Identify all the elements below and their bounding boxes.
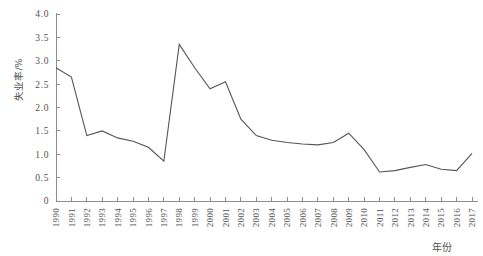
- y-axis: 00.51.01.52.02.53.03.54.0: [35, 9, 60, 206]
- y-tick-label: 3.5: [35, 33, 49, 43]
- x-tick-label: 2010: [359, 208, 369, 227]
- x-tick-label: 1990: [51, 208, 61, 227]
- x-tick-label: 1999: [190, 208, 200, 227]
- x-tick-label: 2016: [452, 208, 462, 227]
- x-tick-label: 2001: [221, 208, 231, 227]
- x-tick-label: 1996: [144, 208, 154, 227]
- x-tick-label: 2005: [282, 208, 292, 227]
- x-tick-label: 1992: [82, 208, 92, 227]
- y-tick-label: 2.0: [35, 103, 49, 113]
- x-tick-label: 2004: [267, 208, 277, 227]
- x-tick-label: 2014: [421, 208, 431, 227]
- x-tick-label: 1993: [97, 208, 107, 227]
- y-tick-label: 0: [44, 196, 49, 206]
- x-tick-label: 2009: [344, 208, 354, 227]
- x-tick-label: 2011: [375, 208, 385, 227]
- x-tick-label: 2013: [406, 208, 416, 227]
- x-tick-label: 2000: [205, 208, 215, 227]
- x-tick-label: 1991: [67, 208, 77, 227]
- x-tick-label: 2003: [251, 208, 261, 227]
- y-tick-label: 3.0: [35, 56, 49, 66]
- x-tick-label: 1997: [159, 208, 169, 227]
- x-tick-label: 2012: [390, 208, 400, 227]
- data-line-unemployment-rate: [56, 44, 472, 172]
- y-tick-label: 0.5: [35, 173, 49, 183]
- x-tick-label: 2002: [236, 208, 246, 227]
- x-axis-title: 年份: [432, 241, 452, 253]
- unemployment-rate-line-chart: 00.51.01.52.02.53.03.54.0 19901991199219…: [0, 0, 483, 256]
- x-tick-label: 2006: [298, 208, 308, 227]
- x-axis: 1990199119921993199419951996199719981999…: [51, 197, 478, 227]
- axis-titles-group: 失业率/%年份: [13, 58, 452, 253]
- y-tick-label: 1.5: [35, 126, 49, 136]
- y-tick-label: 1.0: [35, 150, 49, 160]
- x-tick-label: 1995: [128, 208, 138, 227]
- y-tick-label: 2.5: [35, 80, 49, 90]
- y-axis-title: 失业率/%: [13, 58, 24, 100]
- y-tick-label: 4.0: [35, 9, 49, 19]
- x-tick-label: 2008: [329, 208, 339, 227]
- data-series-group: [56, 44, 472, 172]
- x-tick-label: 1998: [174, 208, 184, 227]
- x-tick-label: 1994: [113, 208, 123, 227]
- chart-canvas: 00.51.01.52.02.53.03.54.0 19901991199219…: [0, 0, 483, 256]
- x-tick-label: 2017: [467, 208, 477, 227]
- x-tick-label: 2007: [313, 208, 323, 227]
- x-tick-label: 2015: [436, 208, 446, 227]
